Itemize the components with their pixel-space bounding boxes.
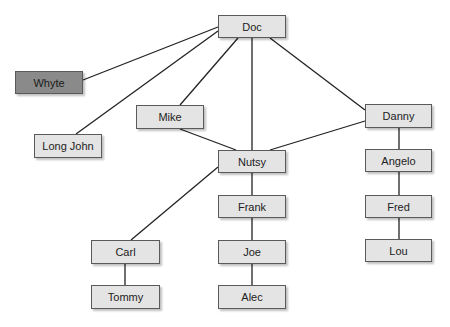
edge-doc-mike: [180, 38, 238, 105]
node-label: Joe: [243, 246, 261, 258]
node-joe: Joe: [218, 240, 286, 264]
node-label: Angelo: [381, 155, 415, 167]
node-frank: Frank: [218, 195, 286, 218]
node-label: Doc: [242, 21, 262, 33]
edge-danny-nutsy: [270, 121, 365, 150]
edge-doc-whyte: [83, 27, 218, 80]
node-label: Danny: [383, 110, 415, 122]
node-doc: Doc: [218, 15, 286, 38]
node-angelo: Angelo: [365, 149, 432, 172]
node-label: Mike: [158, 111, 181, 123]
node-longjohn: Long John: [34, 134, 102, 158]
node-label: Alec: [241, 291, 262, 303]
node-tommy: Tommy: [91, 285, 160, 309]
node-label: Carl: [115, 246, 135, 258]
edge-nutsy-carl: [131, 167, 218, 240]
node-carl: Carl: [91, 240, 160, 264]
node-nutsy: Nutsy: [218, 150, 286, 173]
node-mike: Mike: [136, 105, 204, 129]
edge-mike-nutsy: [180, 129, 236, 150]
node-label: Frank: [238, 201, 266, 213]
edge-doc-danny: [270, 38, 365, 110]
node-whyte: Whyte: [15, 71, 83, 94]
node-lou: Lou: [365, 239, 432, 262]
node-fred: Fred: [365, 195, 432, 218]
node-label: Long John: [42, 140, 93, 152]
node-alec: Alec: [218, 285, 286, 309]
node-danny: Danny: [365, 104, 432, 128]
node-label: Nutsy: [238, 156, 266, 168]
node-label: Tommy: [108, 291, 143, 303]
node-label: Lou: [389, 245, 407, 257]
node-label: Whyte: [33, 77, 64, 89]
node-label: Fred: [387, 201, 410, 213]
